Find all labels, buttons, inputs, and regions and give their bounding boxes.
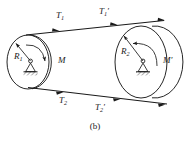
label-R1-sub: 1 bbox=[20, 55, 23, 62]
pulley-1-ground-hatch bbox=[24, 72, 38, 75]
label-T2-prime: T2′ bbox=[95, 103, 105, 112]
pulley-1-back-rim bbox=[32, 35, 51, 89]
label-M-base: M bbox=[58, 55, 66, 65]
pulley-2-group bbox=[115, 26, 183, 98]
belt-drive-figure: T1 T1′ T2 T2′ R1 R2 M M′ (b) bbox=[0, 0, 190, 142]
label-M-prime: M′ bbox=[163, 56, 172, 65]
label-M-prime-base: M bbox=[163, 55, 171, 65]
label-R2-base: R bbox=[121, 46, 127, 56]
belt-top-line bbox=[26, 21, 164, 36]
pulley-2-ground-hatch bbox=[136, 72, 150, 75]
label-T1-prime: T1′ bbox=[99, 7, 109, 16]
label-T2-prime-mark: ′ bbox=[103, 102, 105, 112]
label-M-prime-mark: ′ bbox=[171, 55, 173, 65]
figure-caption: (b) bbox=[0, 121, 190, 131]
pulley-2-pin-support bbox=[138, 63, 148, 71]
label-T2-prime-sub: 2 bbox=[100, 106, 103, 113]
label-R1: R1 bbox=[14, 52, 23, 61]
label-T1-prime-sub: 1 bbox=[104, 10, 107, 17]
label-T1: T1 bbox=[56, 11, 64, 20]
label-T2-sub: 2 bbox=[64, 99, 67, 106]
pulley-1-face bbox=[7, 35, 49, 89]
label-T2: T2 bbox=[59, 96, 67, 105]
label-R2: R2 bbox=[121, 47, 130, 56]
label-R1-base: R bbox=[14, 51, 20, 61]
label-M: M bbox=[58, 56, 66, 65]
label-R2-sub: 2 bbox=[127, 50, 130, 57]
label-T1-sub: 1 bbox=[61, 14, 64, 21]
label-T1-prime-mark: ′ bbox=[107, 6, 109, 16]
pulley-1-pin-support bbox=[26, 63, 36, 71]
pulley-2-moment-arc bbox=[133, 43, 157, 66]
